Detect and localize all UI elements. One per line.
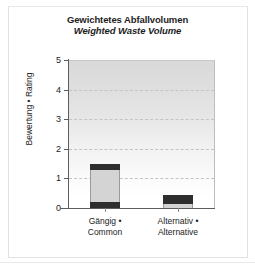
bar-alternative[interactable]: [163, 195, 193, 208]
card-bottom-divider: [0, 262, 255, 263]
x-axis-label-alternative-line2: Alternative: [123, 227, 233, 238]
chart-title-english: Weighted Waste Volume: [0, 25, 255, 36]
x-tick-mark-common: [105, 208, 106, 212]
y-tick-label-5: 5: [44, 55, 61, 65]
x-axis-label-alternative: Alternativ • Alternative: [123, 216, 233, 238]
y-tick-label-0: 0: [44, 203, 61, 213]
x-axis-label-alternative-line1: Alternativ •: [123, 216, 233, 227]
x-axis-line: [60, 208, 215, 209]
y-tick-label-wrap-3: 3: [44, 119, 61, 120]
y-tick-label-3: 3: [44, 114, 61, 124]
plot-top-edge: [69, 60, 214, 61]
y-tick-label-1: 1: [44, 173, 61, 183]
y-tick-label-wrap-0: 0: [44, 208, 61, 209]
gridline-2: [69, 149, 214, 150]
y-tick-label-wrap-5: 5: [44, 60, 61, 61]
bar-alternative-segment-upper-dark: [163, 195, 193, 204]
gridline-3: [69, 119, 214, 120]
gridline-4: [69, 90, 214, 91]
y-tick-label-wrap-1: 1: [44, 178, 61, 179]
chart-title-german: Gewichtetes Abfallvolumen: [0, 14, 255, 25]
chart-card: Gewichtetes Abfallvolumen Weighted Waste…: [0, 0, 255, 271]
plot-area: [69, 60, 215, 208]
chart-title-block: Gewichtetes Abfallvolumen Weighted Waste…: [0, 14, 255, 36]
x-tick-mark-alternative: [178, 208, 179, 212]
y-tick-label-4: 4: [44, 85, 61, 95]
y-axis-title: Bewertung • Rating: [24, 59, 34, 159]
y-tick-label-wrap-2: 2: [44, 149, 61, 150]
y-tick-label-2: 2: [44, 144, 61, 154]
bar-common[interactable]: [90, 164, 120, 208]
y-tick-label-wrap-4: 4: [44, 90, 61, 91]
y-axis-line: [68, 59, 69, 209]
bar-common-segment-middle-light: [90, 170, 120, 203]
